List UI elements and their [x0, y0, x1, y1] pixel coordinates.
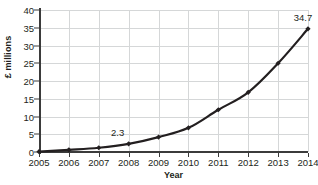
data-point-annotation: 34.7 — [294, 11, 313, 22]
y-axis-tick-label: 25 — [14, 58, 34, 69]
y-axis-tick-label: 0 — [14, 147, 34, 158]
y-axis-title: £ millions — [3, 19, 13, 95]
y-axis-tick-label: 10 — [14, 111, 34, 122]
data-point-marker — [126, 141, 131, 146]
data-point-marker — [66, 147, 71, 152]
data-point-annotation: 2.3 — [111, 126, 124, 137]
y-axis-tick-label: 35 — [14, 22, 34, 33]
x-axis-title: Year — [39, 170, 308, 180]
x-axis-tick-label: 2014 — [288, 157, 318, 168]
line-chart-figure: £ millions 0510152025303540 2.334.7 2005… — [0, 0, 318, 185]
series-path — [39, 29, 308, 152]
x-axis-tick-labels: 2005200620072008200920102011201220132014 — [0, 157, 318, 171]
y-axis-tick-label: 30 — [14, 40, 34, 51]
gridline-vertical — [308, 10, 309, 152]
data-point-marker — [96, 145, 101, 150]
y-axis-tick-label: 20 — [14, 76, 34, 87]
data-series-line — [39, 10, 308, 152]
series-markers — [36, 26, 310, 154]
y-axis-tick-label: 40 — [14, 5, 34, 16]
y-axis-tick-label: 5 — [14, 129, 34, 140]
data-point-marker — [156, 134, 161, 139]
y-axis-tick-label: 15 — [14, 93, 34, 104]
